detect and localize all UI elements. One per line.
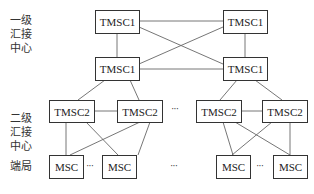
- tmsc2-right-b: TMSC2: [262, 100, 308, 123]
- level2-label-line3: 中心: [10, 140, 32, 154]
- end-office-label: 端局: [10, 160, 32, 174]
- level2-label-line1: 二级: [10, 112, 32, 126]
- network-hierarchy-diagram: 一级 汇接 中心 二级 汇接 中心 端局 TMSC1 TMSC1 TMSC1 T…: [0, 0, 314, 194]
- level2-label: 二级 汇接 中心: [10, 112, 32, 154]
- tmsc1-top-left: TMSC1: [95, 10, 140, 34]
- level1-label: 一级 汇接 中心: [10, 14, 32, 56]
- tmsc1-mid-right: TMSC1: [223, 57, 268, 81]
- tmsc2-right-a: TMSC2: [196, 100, 242, 123]
- ellipsis-msc-middle: ···: [170, 160, 177, 171]
- msc-left-a: MSC: [49, 155, 84, 179]
- level2-label-line2: 汇接: [10, 126, 32, 140]
- tmsc1-top-right: TMSC1: [223, 10, 268, 34]
- tmsc1-mid-left: TMSC1: [95, 57, 140, 81]
- ellipsis-msc-left: ···: [86, 160, 93, 171]
- tmsc2-left-a: TMSC2: [49, 100, 95, 123]
- msc-left-b: MSC: [102, 155, 137, 179]
- level1-label-line2: 汇接: [10, 28, 32, 42]
- level1-label-line1: 一级: [10, 14, 32, 28]
- tmsc2-left-b: TMSC2: [117, 100, 163, 123]
- ellipsis-msc-right: ···: [256, 160, 263, 171]
- ellipsis-tmsc2: ···: [171, 103, 178, 114]
- msc-right-a: MSC: [216, 155, 251, 179]
- msc-right-b: MSC: [273, 155, 308, 179]
- level1-label-line3: 中心: [10, 42, 32, 56]
